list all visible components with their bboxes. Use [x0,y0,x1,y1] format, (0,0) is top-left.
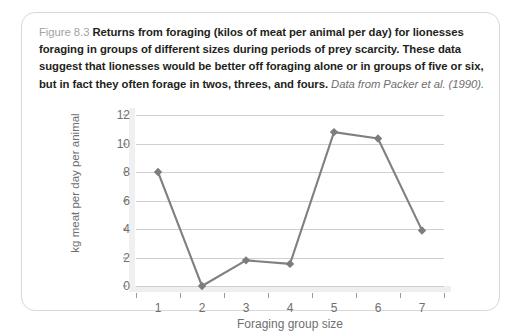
y-tick-label: 6 [96,194,130,208]
x-tick-mark [312,293,313,298]
y-tick-label: 4 [96,222,130,236]
x-tick-mark [444,293,445,298]
data-point-marker [374,134,382,142]
x-tick-mark [268,293,269,298]
line-chart: kg meat per day per animal 024681012 123… [58,109,478,309]
x-tick-label: 6 [363,301,393,315]
y-tick-label: 10 [96,137,130,151]
x-tick-label: 7 [407,301,437,315]
x-tick-label: 5 [319,301,349,315]
x-tick-label: 1 [143,301,173,315]
x-tick-mark [224,293,225,298]
figure-label: Figure 8.3 [39,26,89,38]
x-tick-mark [136,293,137,298]
x-tick-mark [180,293,181,298]
x-tick-mark [400,293,401,298]
y-tick-label: 8 [96,165,130,179]
x-tick-label: 4 [275,301,305,315]
x-axis-title: Foraging group size [136,317,444,331]
data-point-marker [286,260,294,268]
figure-card: Figure 8.3 Returns from foraging (kilos … [21,12,500,311]
x-tick-mark [356,293,357,298]
data-point-marker [154,168,162,176]
y-tick-label: 0 [96,279,130,293]
figure-page: Figure 8.3 Returns from foraging (kilos … [0,0,521,336]
x-tick-label: 2 [187,301,217,315]
gridline [136,286,444,287]
x-tick-label: 3 [231,301,261,315]
y-tick-label: 2 [96,251,130,265]
y-tick-label: 12 [96,108,130,122]
figure-source-citation: Data from Packer et al. (1990). [331,78,484,90]
plot-area: 024681012 1234567 [136,115,444,286]
data-series-line [136,115,444,286]
figure-caption: Figure 8.3 Returns from foraging (kilos … [39,24,486,93]
y-axis-title: kg meat per day per animal [69,93,81,273]
data-point-marker [242,256,250,264]
data-point-marker [330,128,338,136]
data-point-marker [418,226,426,234]
